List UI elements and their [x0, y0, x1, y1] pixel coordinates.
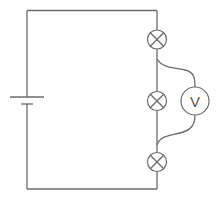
battery-icon — [10, 97, 44, 104]
voltmeter-lead-upper — [157, 59, 195, 87]
circuit-diagram: V — [0, 0, 223, 199]
lamp-2-icon — [148, 92, 167, 111]
main-wires — [27, 11, 157, 190]
voltmeter-icon: V — [181, 87, 209, 115]
lamp-1-icon — [148, 30, 167, 49]
voltmeter-lead-lower — [157, 115, 195, 145]
lamp-3-icon — [148, 153, 167, 172]
voltmeter-label: V — [190, 93, 200, 110]
